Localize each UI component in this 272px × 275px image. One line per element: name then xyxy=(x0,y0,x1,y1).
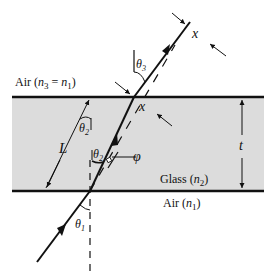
x-top-label: x xyxy=(191,26,199,41)
air-top-label: Air (n3 = n1) xyxy=(15,75,76,91)
x-inner-label: x xyxy=(138,99,146,114)
theta1-label: θ1 xyxy=(75,217,85,233)
glass-slab-diagram: Air (n3 = n1) Glass (n2) Air (n1) θ1 θ2 … xyxy=(0,0,272,275)
phi-label: φ xyxy=(133,149,141,164)
x-top-arrow-right xyxy=(210,44,226,56)
theta3-label: θ3 xyxy=(136,57,146,73)
emergent-arrowhead xyxy=(162,44,170,55)
air-bottom-label: Air (n1) xyxy=(163,196,201,212)
theta1-arc xyxy=(80,205,90,210)
emergent-ray xyxy=(134,22,190,97)
x-top-arrow-left xyxy=(172,13,185,24)
L-label: L xyxy=(58,140,67,156)
theta3-arc xyxy=(134,72,145,82)
x-inner-arrow-left xyxy=(115,82,130,94)
glass-slab xyxy=(12,97,264,191)
